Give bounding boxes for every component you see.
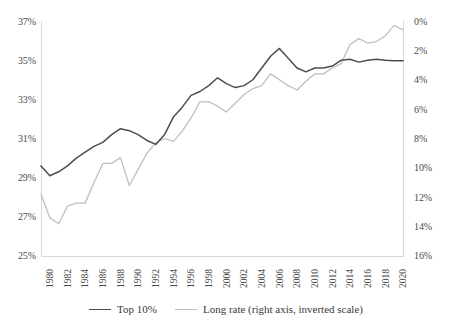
chart-legend: Top 10% Long rate (right axis, inverted … (0, 303, 452, 315)
legend-swatch-top-10 (89, 309, 111, 310)
legend-label-long-rate: Long rate (right axis, inverted scale) (203, 303, 363, 315)
series-line-top-10 (41, 48, 403, 175)
chart-plot-area (0, 0, 452, 321)
chart-container: 37% 35% 33% 31% 29% 27% 25% 0% 2% 4% 6% … (0, 0, 452, 321)
legend-label-top-10: Top 10% (117, 303, 157, 315)
legend-swatch-long-rate (175, 309, 197, 310)
legend-item-long-rate: Long rate (right axis, inverted scale) (175, 303, 363, 315)
series-line-long-rate (41, 25, 403, 223)
legend-item-top-10: Top 10% (89, 303, 157, 315)
